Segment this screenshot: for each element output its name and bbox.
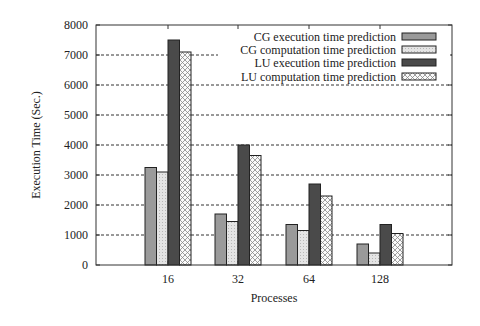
legend-label: LU computation time prediction	[241, 70, 396, 84]
y-tick-label: 7000	[64, 48, 88, 62]
x-tick-label: 32	[232, 272, 244, 286]
y-tick-label: 0	[82, 258, 88, 272]
legend-label: CG execution time prediction	[254, 30, 396, 44]
y-tick-label: 5000	[64, 108, 88, 122]
bar	[286, 225, 298, 266]
bar	[321, 196, 333, 265]
bar	[145, 168, 157, 266]
legend-swatch	[402, 46, 436, 53]
bar	[357, 244, 369, 265]
y-axis-label: Execution Time (Sec.)	[29, 91, 43, 199]
x-tick-label: 64	[303, 272, 315, 286]
x-tick-label: 16	[162, 272, 174, 286]
bar	[250, 156, 262, 266]
bar	[157, 172, 169, 265]
y-tick-label: 6000	[64, 78, 88, 92]
bar	[369, 253, 381, 265]
bar	[298, 231, 310, 266]
y-tick-label: 1000	[64, 228, 88, 242]
bar	[227, 222, 239, 266]
bar	[180, 52, 192, 265]
y-tick-label: 8000	[64, 18, 88, 32]
legend-swatch	[402, 73, 436, 80]
bar	[215, 214, 227, 265]
legend-label: CG computation time prediction	[240, 43, 396, 57]
legend: CG execution time predictionCG computati…	[218, 30, 450, 84]
x-axis-label: Processes	[251, 291, 298, 305]
bar	[238, 145, 250, 265]
legend-label: LU execution time prediction	[254, 56, 396, 70]
y-tick-label: 2000	[64, 198, 88, 212]
bar	[309, 184, 321, 265]
bar-chart: 010002000300040005000600070008000 163264…	[0, 0, 480, 326]
bar	[392, 234, 404, 266]
legend-swatch	[402, 33, 436, 40]
legend-swatch	[402, 59, 436, 66]
y-tick-label: 4000	[64, 138, 88, 152]
bar	[168, 40, 180, 265]
y-tick-label: 3000	[64, 168, 88, 182]
bar	[380, 225, 392, 266]
x-tick-label: 128	[371, 272, 389, 286]
